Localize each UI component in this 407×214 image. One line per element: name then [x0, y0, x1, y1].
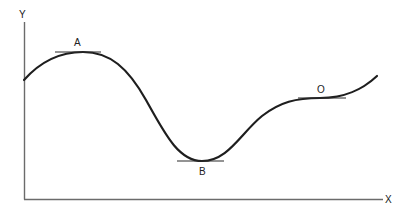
point-label-b: B	[199, 166, 206, 177]
stationary-points-diagram: Y X A B O	[0, 0, 407, 214]
y-axis-label: Y	[19, 9, 26, 20]
function-curve	[24, 52, 377, 161]
point-label-a: A	[74, 37, 81, 48]
x-axis-label: X	[385, 194, 392, 205]
point-label-o: O	[317, 84, 325, 95]
